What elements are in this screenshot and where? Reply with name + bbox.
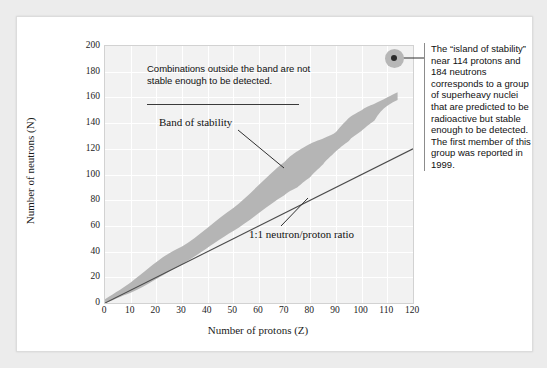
island-of-stability-point bbox=[391, 55, 397, 61]
band-of-stability-label: Band of stability bbox=[159, 116, 232, 128]
y-tick-label: 100 bbox=[74, 170, 100, 180]
y-tick-label: 120 bbox=[74, 144, 100, 154]
one-to-one-ratio-line bbox=[105, 149, 413, 303]
plot-wrapper: 200 180 160 140 120 100 80 60 40 20 0 0 … bbox=[0, 0, 547, 368]
y-tick-label: 140 bbox=[74, 118, 100, 128]
y-tick-label: 60 bbox=[74, 221, 100, 231]
x-axis-ticks: 0 10 20 30 40 50 60 70 80 90 100 110 120 bbox=[104, 306, 412, 320]
y-tick-label: 20 bbox=[74, 272, 100, 282]
y-tick-label: 160 bbox=[74, 92, 100, 102]
x-axis-title: Number of protons (Z) bbox=[104, 324, 412, 336]
y-tick-label: 200 bbox=[74, 41, 100, 51]
outside-band-note-rule bbox=[147, 104, 299, 105]
y-tick-label: 180 bbox=[74, 67, 100, 77]
y-tick-label: 80 bbox=[74, 195, 100, 205]
island-of-stability-caption: The “island of stability” near 114 proto… bbox=[424, 43, 531, 171]
ratio-label: 1:1 neutron/proton ratio bbox=[249, 228, 354, 240]
figure-container: 200 180 160 140 120 100 80 60 40 20 0 0 … bbox=[0, 0, 547, 368]
x-tick-label: 120 bbox=[397, 306, 427, 316]
y-axis-ticks: 200 180 160 140 120 100 80 60 40 20 0 bbox=[70, 45, 100, 302]
y-axis-title: Number of neutrons (N) bbox=[24, 91, 36, 251]
band-of-stability-shape bbox=[105, 92, 398, 303]
y-tick-label: 40 bbox=[74, 247, 100, 257]
outside-band-note: Combinations outside the band are not st… bbox=[147, 63, 322, 86]
